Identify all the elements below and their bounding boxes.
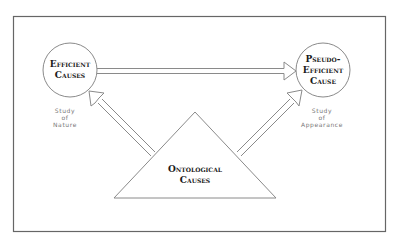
arrow-ontological-to-efficient bbox=[89, 91, 155, 156]
pseudo-label-line2: Efficient bbox=[303, 65, 344, 75]
arrow-efficient-to-pseudo bbox=[97, 62, 296, 80]
efficient-label-line2: Causes bbox=[55, 70, 85, 80]
ontological-causes-triangle bbox=[114, 112, 276, 198]
pseudo-label-line3: Cause bbox=[310, 76, 336, 86]
pseudo-label-line1: Pseudo- bbox=[305, 54, 340, 64]
arrow-ontological-to-pseudo bbox=[237, 90, 302, 156]
note-left-line3: Nature bbox=[53, 121, 77, 128]
ontological-label-line1: Ontological bbox=[168, 164, 223, 174]
ontological-label-line2: Causes bbox=[180, 175, 210, 185]
note-right-line2: of bbox=[319, 114, 326, 121]
efficient-label-line1: Efficient bbox=[50, 59, 91, 69]
note-left-line2: of bbox=[62, 114, 69, 121]
diagram-canvas: Efficient Causes Pseudo- Efficient Cause… bbox=[0, 0, 397, 244]
note-right-line3: Appearance bbox=[301, 121, 343, 129]
